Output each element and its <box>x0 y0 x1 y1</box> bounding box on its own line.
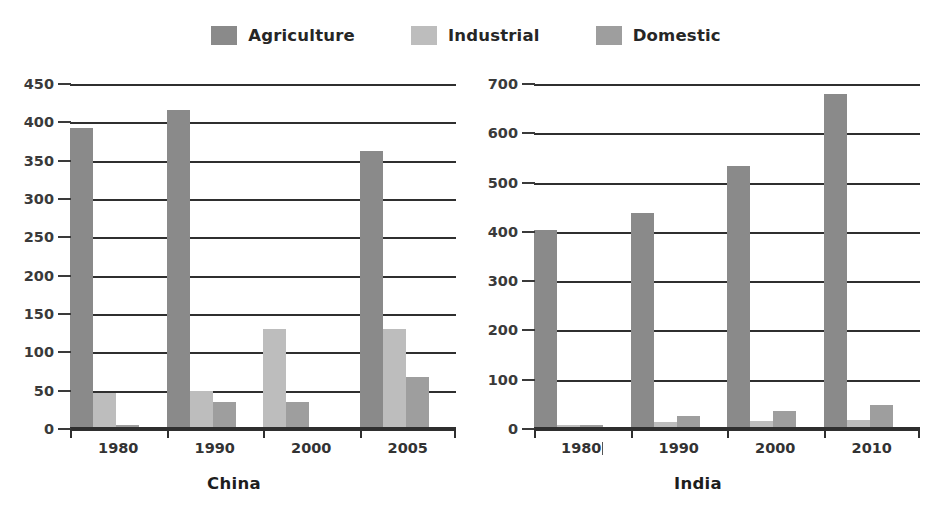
y-axis-tick-mark <box>58 390 71 392</box>
y-axis-tick-mark <box>522 182 535 184</box>
legend-label: Agriculture <box>248 26 355 45</box>
x-axis-tick: 1990 <box>631 429 728 459</box>
bar-agriculture-2005 <box>360 151 383 427</box>
chart-panel-china: 450400350300250200150100500 198019902000… <box>8 84 460 429</box>
y-axis-tick-label: 350 <box>24 153 54 169</box>
y-axis-tick-mark <box>58 313 71 315</box>
bar-domestic-2005 <box>406 377 429 427</box>
legend-label: Domestic <box>633 26 721 45</box>
x-axis-tick: 1980 <box>534 429 631 459</box>
y-axis-tick-mark <box>522 280 535 282</box>
y-axis-china: 450400350300250200150100500 <box>8 84 54 429</box>
bar-group <box>534 84 631 427</box>
y-axis-tick-mark <box>58 121 71 123</box>
y-axis-tick-mark <box>58 351 71 353</box>
bar-industrial-2010 <box>847 420 870 427</box>
legend-item-industrial: Industrial <box>411 26 540 45</box>
y-axis-tick-label: 0 <box>508 421 518 437</box>
y-axis-tick-label: 400 <box>488 224 518 240</box>
bar-domestic-2000 <box>286 402 309 427</box>
bar-industrial-1990 <box>190 391 213 427</box>
y-axis-tick-label: 50 <box>34 383 54 399</box>
bar-domestic-2000 <box>773 411 796 427</box>
y-axis-tick-label: 700 <box>488 76 518 92</box>
bar-group <box>167 84 264 427</box>
x-axis-tick-mark <box>167 429 169 438</box>
y-axis-tick-mark <box>58 275 71 277</box>
bar-agriculture-2010 <box>824 94 847 427</box>
bar-agriculture-1980 <box>70 128 93 427</box>
y-axis-tick-mark <box>58 198 71 200</box>
legend-item-domestic: Domestic <box>596 26 721 45</box>
y-axis-tick-label: 150 <box>24 306 54 322</box>
x-axis-china: 1980199020002005 <box>70 429 456 459</box>
x-axis-india: 1980199020002010 <box>534 429 920 459</box>
y-axis-tick-label: 450 <box>24 76 54 92</box>
x-axis-tick: 1980 <box>70 429 167 459</box>
y-axis-tick-mark <box>522 231 535 233</box>
y-axis-india: 7006005004003002001000 <box>472 84 518 429</box>
bar-group <box>70 84 167 427</box>
bar-industrial-2005 <box>383 329 406 427</box>
x-axis-tick-mark <box>727 429 729 438</box>
x-axis-tick-mark <box>631 429 633 438</box>
text-cursor-artifact <box>602 442 603 455</box>
x-axis-tick-mark <box>263 429 265 438</box>
x-axis-tick-label: 2000 <box>263 440 360 456</box>
x-axis-tick-mark <box>360 429 362 438</box>
legend-label: Industrial <box>448 26 540 45</box>
bar-agriculture-1990 <box>167 110 190 427</box>
x-axis-tick-label: 2010 <box>824 440 921 456</box>
y-axis-tick-label: 100 <box>24 344 54 360</box>
y-axis-tick-mark <box>522 379 535 381</box>
x-axis-tick: 2010 <box>824 429 921 459</box>
bar-industrial-2000 <box>263 329 286 427</box>
y-axis-tick-mark <box>522 132 535 134</box>
y-axis-tick-label: 300 <box>488 273 518 289</box>
plot-area-india: 7006005004003002001000 <box>472 84 924 429</box>
y-axis-tick-label: 250 <box>24 229 54 245</box>
bar-domestic-2010 <box>870 405 893 427</box>
chart-title-china: China <box>8 474 460 493</box>
legend-swatch-icon <box>211 26 237 45</box>
x-axis-tick-mark <box>824 429 826 438</box>
bar-group <box>360 84 457 427</box>
bar-group <box>263 84 360 427</box>
bar-group <box>824 84 921 427</box>
bar-domestic-1990 <box>677 416 700 427</box>
y-axis-tick-label: 400 <box>24 114 54 130</box>
bars-region-china <box>70 84 456 429</box>
x-axis-tick-label: 1980 <box>534 440 631 456</box>
y-axis-tick-mark <box>58 160 71 162</box>
legend-swatch-icon <box>411 26 437 45</box>
x-axis-tick-label: 2000 <box>727 440 824 456</box>
y-axis-tick-mark <box>522 83 535 85</box>
y-axis-tick-mark <box>58 236 71 238</box>
x-axis-tick-label: 1990 <box>167 440 264 456</box>
y-axis-tick-mark <box>522 329 535 331</box>
bar-group <box>631 84 728 427</box>
legend-swatch-icon <box>596 26 622 45</box>
y-axis-tick-label: 100 <box>488 372 518 388</box>
y-axis-tick-label: 500 <box>488 175 518 191</box>
chart-title-india: India <box>472 474 924 493</box>
y-axis-tick-mark <box>58 83 71 85</box>
bar-agriculture-1990 <box>631 213 654 427</box>
x-axis-tick: 1990 <box>167 429 264 459</box>
chart-legend: Agriculture Industrial Domestic <box>0 26 932 45</box>
y-axis-tick-label: 200 <box>488 322 518 338</box>
y-axis-tick-label: 0 <box>44 421 54 437</box>
bar-group <box>727 84 824 427</box>
x-axis-tick: 2000 <box>727 429 824 459</box>
y-axis-tick-label: 200 <box>24 268 54 284</box>
x-axis-tick-label: 2005 <box>360 440 457 456</box>
bar-agriculture-2000 <box>727 166 750 427</box>
y-axis-tick-label: 300 <box>24 191 54 207</box>
bar-industrial-1980 <box>93 393 116 428</box>
plot-area-china: 450400350300250200150100500 <box>8 84 460 429</box>
x-axis-tick-label: 1990 <box>631 440 728 456</box>
x-axis-tick: 2005 <box>360 429 457 459</box>
bars-region-india <box>534 84 920 429</box>
x-axis-tick-label: 1980 <box>70 440 167 456</box>
y-axis-tick-label: 600 <box>488 125 518 141</box>
